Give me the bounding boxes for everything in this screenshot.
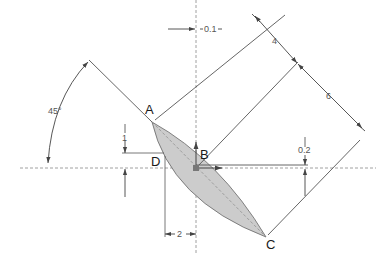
label-dim-0-1: 0.1 xyxy=(204,24,217,34)
origin-marker xyxy=(193,165,199,171)
line-c-upper-right xyxy=(268,140,360,235)
dim-ext-top xyxy=(252,14,260,22)
label-point-b: B xyxy=(200,147,209,162)
label-dim-1: 1 xyxy=(122,133,127,143)
label-dim-0-2: 0.2 xyxy=(298,145,311,155)
engineering-diagram: A B C D 45° 0.1 4 6 1 0.2 2 xyxy=(0,0,387,266)
line-a-upper-left xyxy=(89,60,152,122)
label-angle-45: 45° xyxy=(48,106,62,116)
line-a-upper-right xyxy=(155,15,285,120)
label-dim-2: 2 xyxy=(177,229,182,239)
label-dim-6: 6 xyxy=(326,91,331,101)
label-point-a: A xyxy=(145,102,154,117)
line-b-upper-right xyxy=(198,62,298,166)
label-point-d: D xyxy=(151,154,160,169)
dim-ext-end xyxy=(357,124,365,131)
label-dim-4: 4 xyxy=(272,36,277,46)
label-point-c: C xyxy=(266,237,275,252)
